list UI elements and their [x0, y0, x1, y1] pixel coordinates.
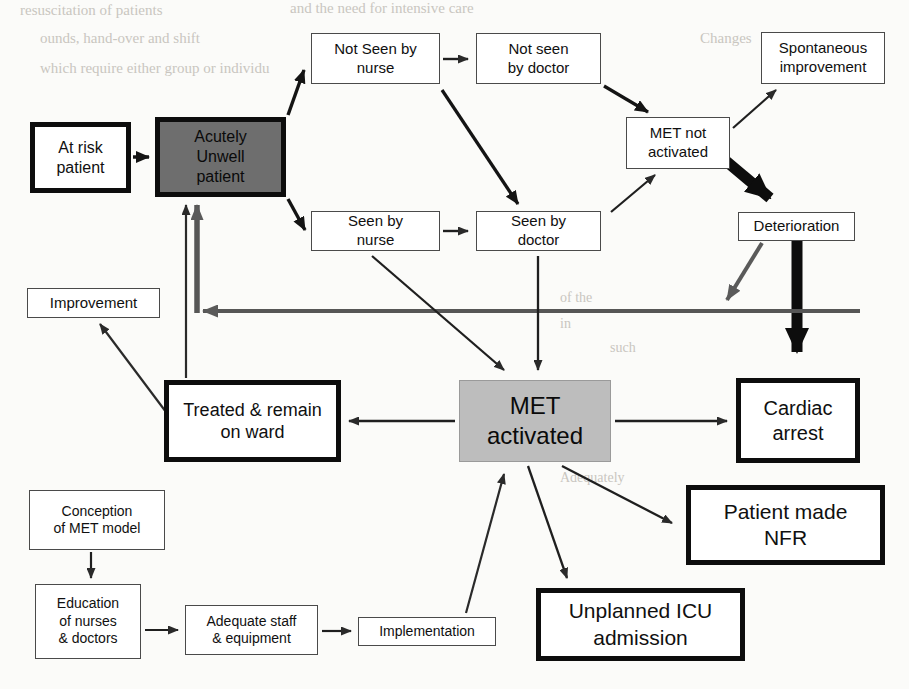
- edge-met-activated-to-icu: [528, 466, 567, 578]
- node-adequate: Adequate staff & equipment: [185, 605, 318, 655]
- edge-seen-doctor-to-met-not-activated: [611, 175, 655, 212]
- node-seen_nurse: Seen by nurse: [311, 211, 440, 251]
- node-nfr: Patient made NFR: [686, 485, 885, 565]
- node-conception: Conception of MET model: [29, 490, 165, 550]
- edge-met-not-activated-to-deterioration: [726, 161, 770, 198]
- node-acutely_unwell: Acutely Unwell patient: [155, 117, 286, 197]
- node-icu: Unplanned ICU admission: [536, 588, 745, 661]
- node-treated_ward: Treated & remain on ward: [164, 380, 341, 462]
- node-spontaneous: Spontaneous improvement: [761, 32, 885, 84]
- edge-deterioration-to-feedback-rail: [727, 243, 762, 300]
- edge-met-activated-to-nfr: [562, 466, 672, 523]
- node-seen_doc: Seen by doctor: [476, 211, 601, 251]
- node-implementation: Implementation: [358, 617, 496, 646]
- edge-not-seen-doctor-to-met-not-activated: [604, 86, 648, 112]
- node-not_seen_nurse: Not Seen by nurse: [311, 33, 440, 84]
- diagram-canvas: resuscitation of patientsand the need fo…: [0, 0, 909, 689]
- edge-treated-ward-to-improvement: [100, 324, 166, 412]
- edge-implementation-to-met-activated: [466, 474, 504, 613]
- node-met_activated: MET activated: [459, 380, 611, 462]
- edge-acutely-unwell-to-not-seen-nurse: [288, 70, 304, 115]
- node-met_not_act: MET not activated: [626, 117, 730, 169]
- node-education: Education of nurses & doctors: [35, 584, 141, 659]
- node-at_risk: At risk patient: [30, 122, 131, 193]
- edge-met-not-activated-to-spontaneous-improvement: [733, 90, 776, 128]
- edge-acutely-unwell-to-seen-nurse: [288, 199, 305, 230]
- node-not_seen_doc: Not seen by doctor: [476, 33, 601, 84]
- node-deterioration: Deterioration: [738, 212, 855, 241]
- node-cardiac_arrest: Cardiac arrest: [736, 378, 860, 463]
- edge-not-seen-nurse-to-seen-doctor: [442, 90, 518, 204]
- node-improvement: Improvement: [27, 288, 160, 318]
